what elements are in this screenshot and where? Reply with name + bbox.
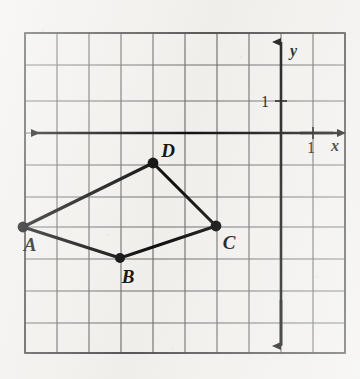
vertex-point-d: [148, 158, 159, 169]
vertex-label-c: C: [223, 232, 236, 253]
vertex-label-d: D: [160, 140, 175, 161]
vertex-label-a: A: [23, 234, 37, 255]
quadrilateral-abcd: [23, 163, 216, 258]
vertex-point-a: [18, 222, 29, 233]
y-axis-unit-tick-label: 1: [261, 93, 269, 110]
x-axis-name-label: x: [330, 137, 339, 154]
vertex-point-c: [211, 221, 222, 232]
coordinate-grid-figure: 1 1 y x A B C D: [0, 0, 360, 379]
vertex-label-b: B: [121, 266, 135, 287]
y-axis-name-label: y: [288, 42, 298, 60]
figure-container: 1 1 y x A B C D: [0, 0, 360, 379]
x-axis-unit-tick-label: 1: [307, 139, 315, 156]
vertex-point-b: [115, 253, 125, 263]
